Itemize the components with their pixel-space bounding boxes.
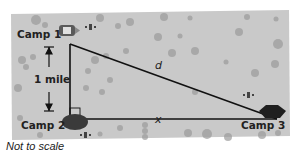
vertical-leg-label: 1 mile bbox=[34, 73, 70, 85]
rock bbox=[23, 64, 29, 70]
rock bbox=[126, 18, 134, 26]
rock bbox=[202, 129, 212, 139]
not-to-scale-caption: Not to scale bbox=[6, 140, 64, 152]
rock bbox=[85, 68, 91, 74]
rock bbox=[168, 49, 176, 57]
rock bbox=[98, 132, 103, 137]
camp-2-label: Camp 2 bbox=[21, 119, 65, 131]
base-label: x bbox=[154, 113, 162, 126]
rock bbox=[188, 16, 193, 21]
rock bbox=[224, 133, 232, 141]
rock bbox=[31, 15, 41, 25]
rock bbox=[30, 54, 36, 60]
rock bbox=[14, 84, 22, 92]
rock bbox=[273, 39, 283, 49]
rock bbox=[117, 125, 123, 131]
rock bbox=[18, 56, 26, 64]
rock bbox=[154, 33, 162, 41]
rock bbox=[271, 60, 279, 68]
rock bbox=[160, 13, 168, 21]
hypotenuse-label: d bbox=[155, 59, 163, 72]
rock bbox=[99, 89, 105, 95]
rock bbox=[142, 128, 148, 134]
camp-map-diagram: Camp 1 Camp 2 Camp 3 1 mile d x bbox=[0, 0, 299, 159]
rock bbox=[258, 131, 266, 139]
rock bbox=[83, 85, 89, 91]
rock bbox=[235, 28, 243, 36]
rock bbox=[107, 77, 113, 83]
rock bbox=[142, 134, 148, 140]
camp-3-label: Camp 3 bbox=[241, 119, 285, 131]
rock bbox=[91, 56, 99, 64]
rock bbox=[244, 14, 250, 20]
rock bbox=[142, 122, 148, 128]
rock bbox=[191, 47, 199, 55]
camp-1-label: Camp 1 bbox=[17, 28, 61, 40]
rock bbox=[274, 17, 279, 22]
rock bbox=[251, 69, 259, 77]
rock bbox=[184, 129, 192, 137]
rock bbox=[96, 14, 104, 22]
rock bbox=[115, 23, 121, 29]
rock bbox=[123, 48, 129, 54]
rock bbox=[224, 60, 229, 65]
rock bbox=[37, 132, 43, 138]
rock bbox=[178, 34, 183, 39]
